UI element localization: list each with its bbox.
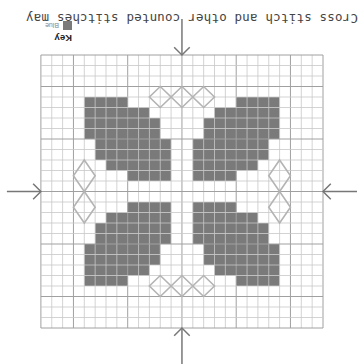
stitch-fill <box>204 118 280 129</box>
stitch-fill <box>84 255 160 266</box>
stitch-fill <box>204 244 280 255</box>
stitch-fill <box>95 150 171 161</box>
rotated-pattern-page: Cross stitch and other counted stitches … <box>0 0 362 364</box>
stitch-fill <box>193 150 269 161</box>
stitch-fill <box>193 234 269 245</box>
stitch-fill <box>84 129 160 140</box>
stitch-fill <box>204 129 280 140</box>
stitch-fill <box>193 223 269 234</box>
stitch-fill <box>95 139 171 150</box>
stitch-fill <box>95 223 171 234</box>
stitch-fill <box>204 255 280 266</box>
stitch-fill <box>95 234 171 245</box>
stitch-fill <box>84 118 160 129</box>
stitch-fill <box>84 244 160 255</box>
stitch-fill <box>193 139 269 150</box>
cross-stitch-chart <box>0 0 362 364</box>
